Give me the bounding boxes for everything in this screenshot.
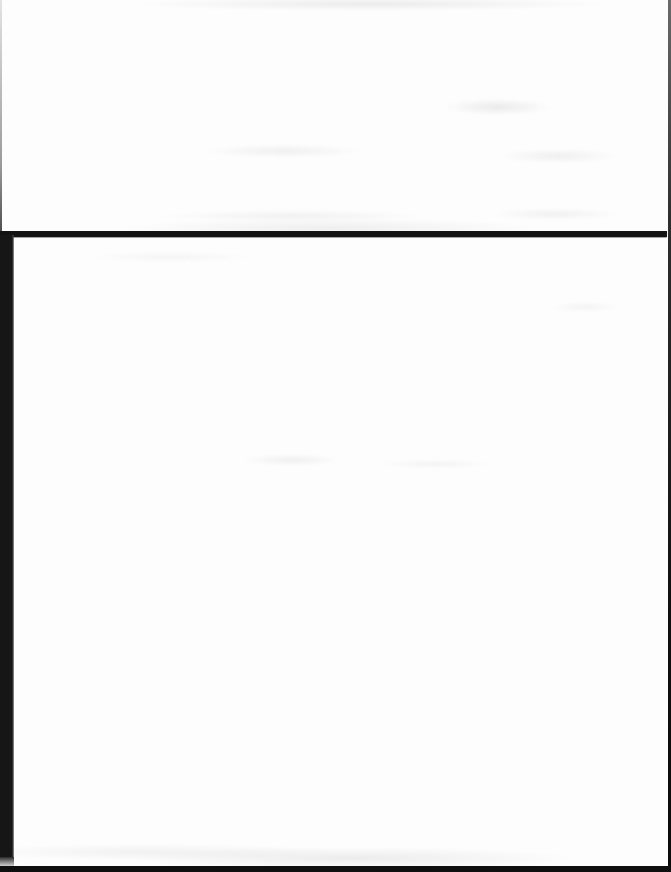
- bleedthrough-smudge: [470, 206, 640, 222]
- bleedthrough-smudge: [112, 208, 472, 224]
- bleedthrough-smudge: [60, 250, 280, 264]
- bleedthrough-smudge: [425, 96, 570, 118]
- left-gutter-shadow-bar: [0, 235, 14, 859]
- scanned-document-page: [0, 0, 671, 872]
- upper-page-region: [0, 0, 671, 231]
- bleedthrough-smudge: [540, 300, 630, 314]
- bleedthrough-smudge: [478, 146, 638, 166]
- lower-page-region: [14, 237, 668, 866]
- bleedthrough-smudge: [178, 142, 388, 160]
- bleedthrough-smudge: [360, 458, 510, 470]
- bottom-scan-edge-strip: [0, 866, 671, 872]
- bleedthrough-smudge: [226, 452, 356, 468]
- left-gutter-shadow-fade: [0, 857, 14, 867]
